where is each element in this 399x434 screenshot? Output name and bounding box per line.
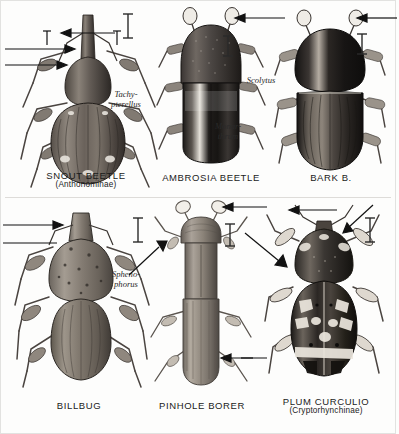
figure-billbug xyxy=(9,201,159,393)
pointer-arrow-top-left xyxy=(283,201,339,219)
pointer-arrow-group xyxy=(1,217,79,251)
caption-billbug: BILLBUG xyxy=(9,401,149,411)
scale-bar xyxy=(221,33,235,59)
caption-ambrosia-beetle: AMBROSIA BEETLE xyxy=(143,173,279,183)
antennal-club-left xyxy=(183,8,197,25)
genus-line-2: phorus xyxy=(114,279,138,289)
figure-plum-curculio xyxy=(259,201,393,393)
antennal-club-left xyxy=(297,10,311,26)
genus-label-scolytus: Scolytus xyxy=(233,75,289,85)
pointer-arrow xyxy=(353,9,399,29)
caption-bark-beetle: BARK B. xyxy=(279,173,383,183)
subfamily-name: (Cryptorhynchinae) xyxy=(259,407,393,416)
common-name: AMBROSIA BEETLE xyxy=(143,173,279,183)
figure-ambrosia-beetle xyxy=(151,7,271,177)
scale-bar xyxy=(355,31,369,57)
common-name: PINHOLE BORER xyxy=(137,401,267,411)
scale-bar xyxy=(223,221,237,249)
genus-line-1: Tachy- xyxy=(114,89,137,99)
common-name: BILLBUG xyxy=(9,401,149,411)
pointer-arrow-group xyxy=(3,23,125,73)
scale-bar xyxy=(363,215,377,245)
pointer-arrow-upper-left xyxy=(127,235,175,277)
genus-line-1: Scolytus xyxy=(247,75,276,85)
row-divider xyxy=(5,197,391,198)
figure-bark-beetle xyxy=(269,7,393,182)
caption-pinhole-borer: PINHOLE BORER xyxy=(137,401,267,411)
genus-label-tachypterellus: Tachy- pterellus xyxy=(99,89,153,109)
common-name: BARK B. xyxy=(279,173,383,183)
genus-line-1: Monar- xyxy=(215,121,241,131)
genus-line-2: thrum xyxy=(218,131,239,141)
elytral-pale-band xyxy=(185,91,237,111)
pointer-arrow-left xyxy=(243,229,299,273)
genus-line-2: pterellus xyxy=(111,99,141,109)
pointer-arrow-lower-left xyxy=(241,351,271,365)
genus-label-monarthrum: Monar- thrum xyxy=(203,121,253,141)
caption-plum-curculio: PLUM CURCULIO (Cryptorhynchinae) xyxy=(259,397,393,416)
scale-bar xyxy=(121,11,135,41)
antennal-club-left xyxy=(174,199,192,216)
